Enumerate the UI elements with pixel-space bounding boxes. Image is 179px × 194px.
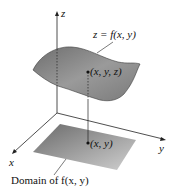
surface-label: z = f(x, y) — [93, 29, 136, 40]
surface-label-leader — [97, 42, 113, 53]
domain-point-label: (x, y) — [90, 138, 113, 149]
surface — [33, 47, 140, 101]
domain-caption: Domain of f(x, y) — [11, 175, 89, 186]
y-axis-label: y — [159, 143, 164, 154]
domain-region — [33, 124, 136, 170]
y-axis-arrow-icon — [160, 137, 166, 141]
surface-point-label: (x, y, z) — [90, 66, 122, 77]
z-axis-arrow-icon — [55, 11, 59, 16]
domain-caption-leader — [54, 159, 66, 175]
z-axis-label: z — [61, 8, 65, 19]
graph-of-function-diagram — [0, 0, 179, 194]
x-axis-label: x — [9, 157, 14, 168]
